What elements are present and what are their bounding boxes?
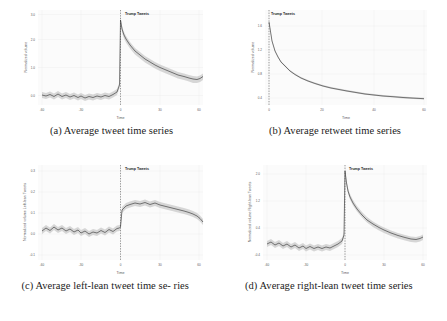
chart-d-xaxis-label: Time bbox=[341, 271, 349, 275]
subfigure-d: Trump Tweets -0.4 0.4 1.2 2.0 -60 -30 0 … bbox=[223, 155, 447, 321]
svg-text:2.0: 2.0 bbox=[31, 38, 36, 42]
svg-text:1.2: 1.2 bbox=[258, 48, 263, 52]
svg-text:0: 0 bbox=[268, 108, 270, 112]
svg-text:60: 60 bbox=[421, 263, 425, 267]
caption-b: (b) Average retweet time series bbox=[237, 125, 433, 138]
plot-a: Trump Tweets 0.0 1.0 2.0 3.0 -60 -30 0 3… bbox=[0, 0, 223, 124]
caption-d-line2: series bbox=[389, 280, 413, 291]
caption-a: (a) Average tweet time series bbox=[14, 125, 210, 138]
svg-text:0.4: 0.4 bbox=[258, 96, 263, 100]
chart-d-yaxis-label: Normalized volume Right-lean Tweets bbox=[248, 182, 252, 243]
svg-text:1.0: 1.0 bbox=[31, 66, 36, 70]
svg-text:0: 0 bbox=[344, 263, 346, 267]
svg-text:2.0: 2.0 bbox=[256, 172, 261, 176]
chart-d-annotation-label: Trump Tweets bbox=[349, 167, 373, 171]
svg-text:3.0: 3.0 bbox=[31, 13, 36, 17]
caption-c: (c) Average left-lean tweet time se- rie… bbox=[22, 280, 202, 293]
svg-text:-60: -60 bbox=[40, 263, 45, 267]
svg-text:0.1: 0.1 bbox=[31, 211, 36, 215]
svg-text:0: 0 bbox=[120, 108, 122, 112]
chart-b-svg: Trump Tweets 0.4 0.8 1.2 1.6 0 20 40 60 … bbox=[223, 0, 447, 124]
plot-c: Trump Tweets -0.1 0.0 0.1 0.2 0.3 -60 -3… bbox=[0, 155, 223, 279]
svg-text:30: 30 bbox=[382, 263, 386, 267]
svg-text:20: 20 bbox=[320, 108, 324, 112]
svg-text:60: 60 bbox=[422, 108, 426, 112]
svg-text:0.8: 0.8 bbox=[258, 72, 263, 76]
svg-text:-60: -60 bbox=[265, 263, 270, 267]
subfigure-a: Trump Tweets 0.0 1.0 2.0 3.0 -60 -30 0 3… bbox=[0, 0, 223, 155]
chart-b-xaxis-label: Time bbox=[342, 116, 350, 120]
svg-text:0.0: 0.0 bbox=[31, 94, 36, 98]
chart-c-svg: Trump Tweets -0.1 0.0 0.1 0.2 0.3 -60 -3… bbox=[0, 155, 223, 279]
caption-d: (d) Average right-lean tweet time series bbox=[245, 280, 425, 293]
svg-text:1.2: 1.2 bbox=[256, 199, 261, 203]
svg-text:-30: -30 bbox=[79, 108, 84, 112]
svg-text:30: 30 bbox=[158, 263, 162, 267]
svg-text:60: 60 bbox=[197, 108, 201, 112]
svg-text:0.3: 0.3 bbox=[31, 169, 36, 173]
chart-d-svg: Trump Tweets -0.4 0.4 1.2 2.0 -60 -30 0 … bbox=[223, 155, 447, 279]
chart-c-annotation-label: Trump Tweets bbox=[125, 167, 149, 171]
svg-text:40: 40 bbox=[372, 108, 376, 112]
svg-text:0.4: 0.4 bbox=[256, 226, 261, 230]
subfigure-c: Trump Tweets -0.1 0.0 0.1 0.2 0.3 -60 -3… bbox=[0, 155, 223, 321]
plot-b: Trump Tweets 0.4 0.8 1.2 1.6 0 20 40 60 … bbox=[223, 0, 447, 124]
svg-text:30: 30 bbox=[158, 108, 162, 112]
svg-text:0: 0 bbox=[120, 263, 122, 267]
svg-text:-0.1: -0.1 bbox=[30, 253, 36, 257]
plot-d: Trump Tweets -0.4 0.4 1.2 2.0 -60 -30 0 … bbox=[223, 155, 447, 279]
chart-a-yaxis-label: Normalized volume bbox=[24, 42, 28, 73]
svg-text:1.6: 1.6 bbox=[258, 24, 263, 28]
svg-text:-30: -30 bbox=[304, 263, 309, 267]
caption-d-line1: (d) Average right-lean tweet time bbox=[245, 280, 386, 291]
svg-text:0.0: 0.0 bbox=[31, 232, 36, 236]
svg-text:0.2: 0.2 bbox=[31, 190, 36, 194]
svg-text:-0.4: -0.4 bbox=[255, 253, 261, 257]
svg-text:-30: -30 bbox=[79, 263, 84, 267]
chart-a-svg: Trump Tweets 0.0 1.0 2.0 3.0 -60 -30 0 3… bbox=[0, 0, 223, 124]
caption-c-line1: (c) Average left-lean tweet time se- bbox=[22, 280, 171, 291]
chart-a-xaxis-label: Time bbox=[117, 116, 125, 120]
svg-text:-60: -60 bbox=[40, 108, 45, 112]
chart-a-annotation-label: Trump Tweets bbox=[125, 12, 149, 16]
chart-b-yaxis-label: Normalized volume bbox=[251, 42, 255, 73]
chart-c-xaxis-label: Time bbox=[117, 271, 125, 275]
svg-text:60: 60 bbox=[197, 263, 201, 267]
subfigure-b: Trump Tweets 0.4 0.8 1.2 1.6 0 20 40 60 … bbox=[223, 0, 447, 155]
figure-grid: Trump Tweets 0.0 1.0 2.0 3.0 -60 -30 0 3… bbox=[0, 0, 447, 321]
chart-c-yaxis-label: Normalized volume Left-lean Tweets bbox=[23, 183, 27, 241]
caption-c-line2: ries bbox=[174, 280, 189, 291]
chart-b-annotation-label: Trump Tweets bbox=[271, 12, 295, 16]
